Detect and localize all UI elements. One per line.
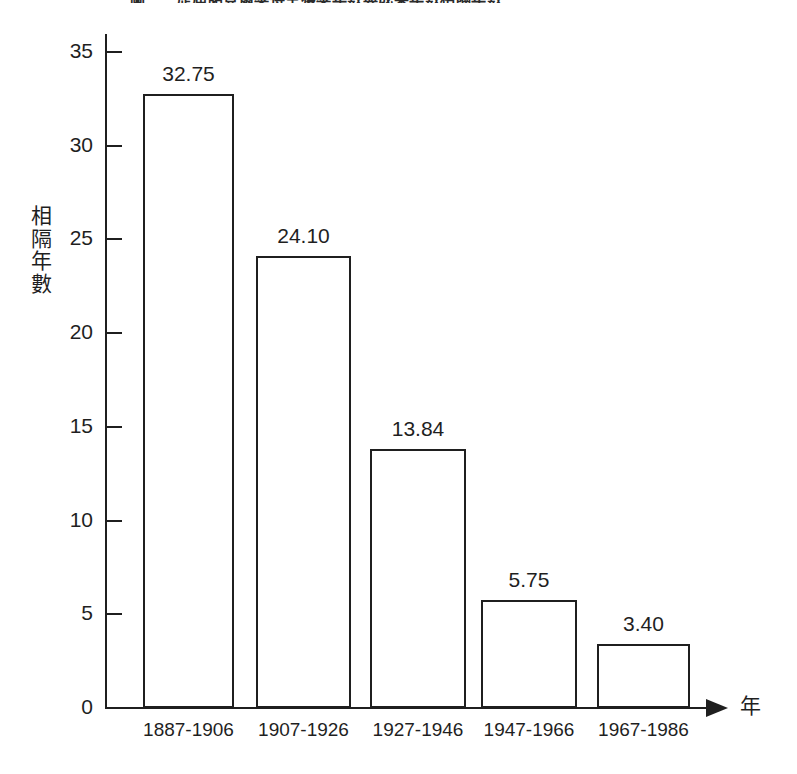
bar — [256, 256, 351, 708]
y-axis-tick-label: 0 — [47, 695, 93, 719]
y-axis-tick — [107, 707, 122, 709]
y-axis-tick — [107, 613, 122, 615]
y-axis-tick — [107, 238, 122, 240]
bar-value-label: 3.40 — [572, 612, 715, 636]
bar — [481, 600, 577, 708]
y-axis-tick-label: 20 — [47, 320, 93, 344]
bar — [597, 644, 690, 708]
y-axis-tick-label: 35 — [47, 39, 93, 63]
y-axis-line — [105, 34, 107, 709]
bar-value-label: 5.75 — [456, 568, 602, 592]
y-axis-tick — [107, 145, 122, 147]
x-axis-label: 年 — [740, 689, 761, 719]
y-axis-tick-label: 25 — [47, 226, 93, 250]
y-axis-tick — [107, 332, 122, 334]
y-axis-tick — [107, 51, 122, 53]
chart-title: 圖一 歷屆諾貝爾獎得主獲獎年數與成果年數相隔年數 — [130, 0, 730, 3]
bar-value-label: 24.10 — [231, 224, 376, 248]
y-axis-tick-label: 5 — [47, 601, 93, 625]
bar-value-label: 32.75 — [118, 62, 259, 86]
bar-value-label: 13.84 — [345, 417, 491, 441]
y-axis-tick-label: 10 — [47, 508, 93, 532]
bar — [143, 94, 234, 708]
bar — [370, 449, 466, 708]
x-axis-category-label: 1967-1986 — [567, 719, 720, 741]
y-axis-tick — [107, 520, 122, 522]
y-axis-tick-label: 15 — [47, 414, 93, 438]
y-axis-tick — [107, 426, 122, 428]
y-axis-tick-label: 30 — [47, 133, 93, 157]
bar-chart: 圖一 歷屆諾貝爾獎得主獲獎年數與成果年數相隔年數 年 相隔年數 05101520… — [0, 0, 797, 774]
x-axis-arrow-icon — [706, 699, 728, 717]
